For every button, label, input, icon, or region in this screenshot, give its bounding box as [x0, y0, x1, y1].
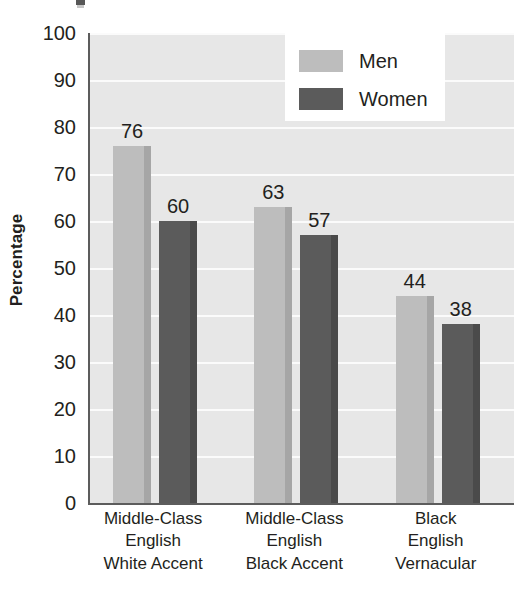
legend-swatch-women	[299, 88, 343, 110]
x-axis-category-labels: Middle-ClassEnglishWhite AccentMiddle-Cl…	[88, 508, 512, 600]
y-axis-tick-labels: 1009080706050403020100	[26, 33, 82, 503]
bar-value-label: 60	[167, 196, 189, 216]
y-axis-tick-label: 10	[54, 446, 76, 466]
bar-side-shading	[190, 221, 197, 503]
category-label-line: White Accent	[73, 553, 233, 575]
y-axis-tick-label: 30	[54, 352, 76, 372]
cropped-text-artifact	[76, 0, 85, 5]
bar-men: 76	[113, 146, 151, 503]
bar-side-shading	[331, 235, 338, 503]
category-label-line: English	[214, 530, 374, 552]
bar-side-shading	[427, 296, 434, 503]
y-axis-tick-label: 20	[54, 399, 76, 419]
category-label-line: Vernacular	[356, 553, 516, 575]
category-label-line: Black	[356, 508, 516, 530]
category-label-line: Black Accent	[214, 553, 374, 575]
bar-side-shading	[144, 146, 151, 503]
category-label-line: Middle-Class	[214, 508, 374, 530]
bar-women: 57	[300, 235, 338, 503]
bar-women: 38	[442, 324, 480, 503]
chart-legend: MenWomen	[285, 31, 445, 121]
legend-item-women[interactable]: Women	[299, 83, 445, 115]
y-axis-tick-label: 80	[54, 117, 76, 137]
x-axis-category-label: Middle-ClassEnglishWhite Accent	[73, 508, 233, 575]
y-axis-tick-label: 90	[54, 70, 76, 90]
legend-swatch-men	[299, 50, 343, 72]
x-axis-category-label: BlackEnglishVernacular	[356, 508, 516, 575]
bar-value-label: 44	[404, 271, 426, 291]
bar-side-shading	[473, 324, 480, 503]
plot-area: 766063574438 MenWomen	[88, 33, 514, 505]
category-label-line: English	[73, 530, 233, 552]
y-axis-tick-label: 70	[54, 164, 76, 184]
category-label-line: English	[356, 530, 516, 552]
legend-label: Women	[359, 89, 428, 109]
bar-value-label: 38	[450, 299, 472, 319]
bar-value-label: 57	[308, 210, 330, 230]
category-label-line: Middle-Class	[73, 508, 233, 530]
y-axis-tick-label: 40	[54, 305, 76, 325]
bar-value-label: 63	[262, 182, 284, 202]
bar-men: 63	[254, 207, 292, 503]
y-axis-tick-label: 100	[43, 23, 76, 43]
x-axis-category-label: Middle-ClassEnglishBlack Accent	[214, 508, 374, 575]
y-axis-tick-label: 50	[54, 258, 76, 278]
bar-side-shading	[285, 207, 292, 503]
y-axis-title-text: Percentage	[7, 214, 27, 307]
y-axis-tick-label: 60	[54, 211, 76, 231]
bar-women: 60	[159, 221, 197, 503]
legend-label: Men	[359, 51, 398, 71]
legend-item-men[interactable]: Men	[299, 45, 445, 77]
bar-value-label: 76	[121, 121, 143, 141]
bar-men: 44	[396, 296, 434, 503]
